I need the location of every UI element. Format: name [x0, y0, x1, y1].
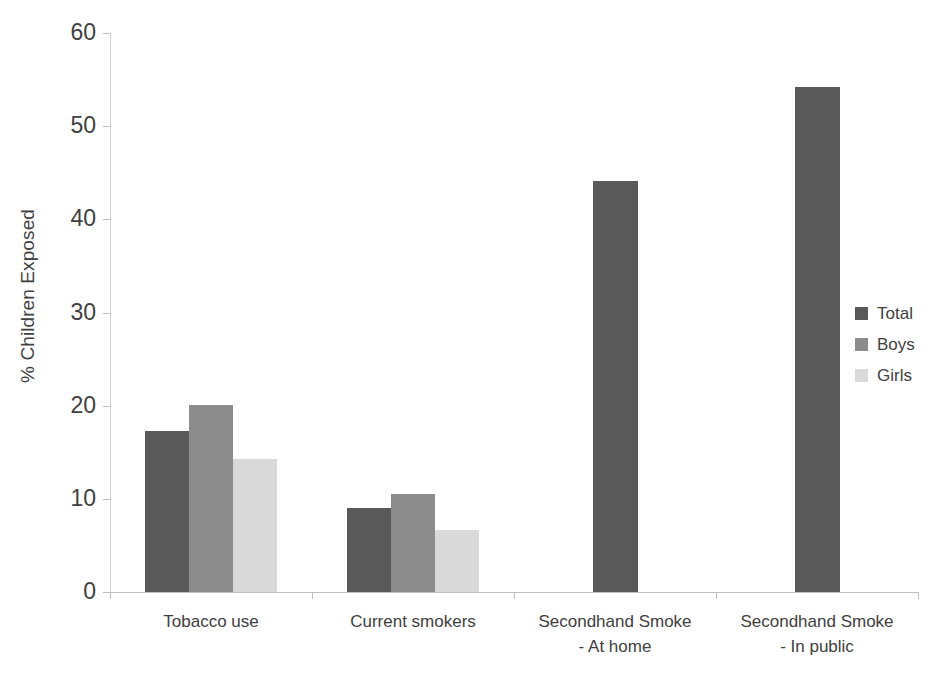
y-axis-tick: 30 [0, 313, 110, 314]
bar-chart: % Children Exposed 0102030405060 Tobacco… [0, 0, 951, 676]
legend-item: Total [855, 298, 951, 329]
y-axis-title-text: % Children Exposed [17, 209, 39, 383]
legend-swatch-icon [855, 307, 868, 320]
bar [435, 530, 479, 592]
bar [795, 87, 840, 592]
x-axis-tick-mark [514, 592, 515, 599]
bar [233, 459, 277, 592]
bar [391, 494, 435, 592]
legend-swatch-icon [855, 369, 868, 382]
legend-swatch-icon [855, 338, 868, 351]
y-axis-tick: 10 [0, 499, 110, 500]
x-axis-tick-mark [918, 592, 919, 599]
y-axis-tick-label: 10 [70, 485, 96, 512]
bar [347, 508, 391, 592]
y-axis-tick-mark [103, 126, 110, 127]
y-axis-tick-mark [103, 406, 110, 407]
x-axis-category-label: Current smokers [300, 610, 526, 635]
y-axis-title: % Children Exposed [8, 0, 48, 592]
y-axis-tick-mark [103, 592, 110, 593]
y-axis-tick-mark [103, 219, 110, 220]
y-axis-tick: 60 [0, 33, 110, 34]
legend-item: Girls [855, 360, 951, 391]
y-axis-tick-label: 60 [70, 19, 96, 46]
y-axis-tick-label: 40 [70, 205, 96, 232]
legend-item-label: Boys [877, 335, 915, 355]
bar [189, 405, 233, 592]
chart-legend: TotalBoysGirls [855, 298, 951, 391]
y-axis-tick: 40 [0, 219, 110, 220]
x-axis-category-label: Secondhand Smoke - In public [704, 610, 930, 659]
y-axis-tick-mark [103, 33, 110, 34]
y-axis-tick-label: 20 [70, 392, 96, 419]
plot-area [110, 33, 918, 592]
legend-item-label: Total [877, 304, 913, 324]
bar [593, 181, 638, 592]
x-axis-tick-mark [312, 592, 313, 599]
y-axis-tick: 50 [0, 126, 110, 127]
x-axis-tick-mark [716, 592, 717, 599]
x-axis-category-label: Tobacco use [98, 610, 324, 635]
x-axis-tick-mark [110, 592, 111, 599]
bar [145, 431, 189, 592]
y-axis-tick-label: 30 [70, 299, 96, 326]
legend-item-label: Girls [877, 366, 912, 386]
y-axis-tick-label: 50 [70, 112, 96, 139]
y-axis-tick-label: 0 [83, 578, 96, 605]
x-axis-category-label: Secondhand Smoke - At home [502, 610, 728, 659]
y-axis-tick-mark [103, 313, 110, 314]
legend-item: Boys [855, 329, 951, 360]
y-axis-tick: 20 [0, 406, 110, 407]
y-axis-tick: 0 [0, 592, 110, 593]
y-axis-tick-mark [103, 499, 110, 500]
